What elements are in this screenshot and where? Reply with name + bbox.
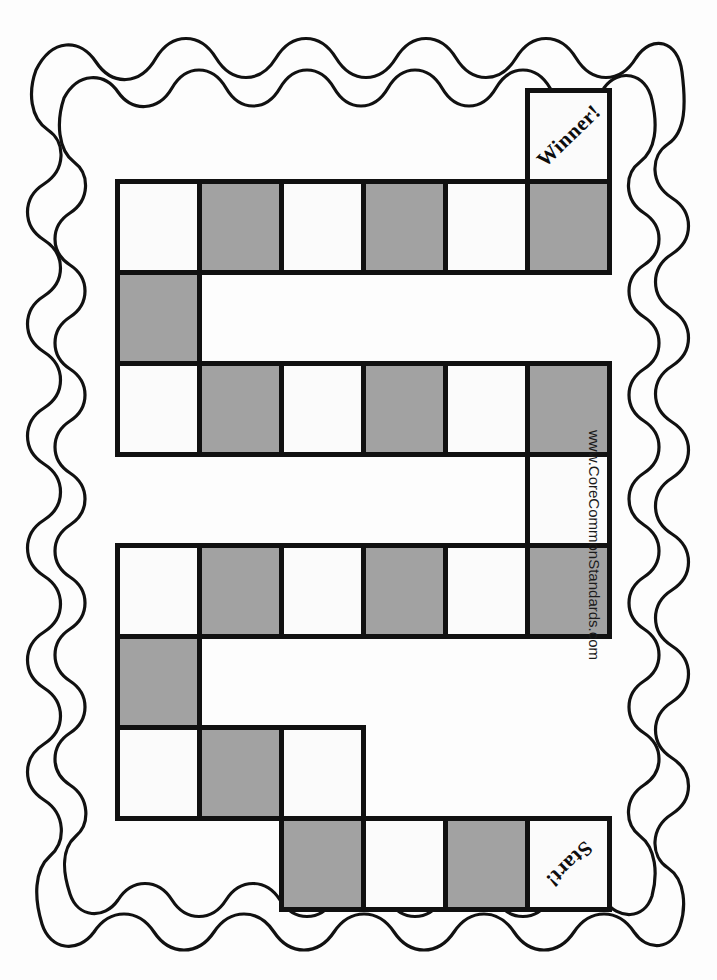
board-cell-r3c0[interactable] (115, 361, 202, 457)
board-cell-winner[interactable]: Winner! (525, 88, 612, 184)
board-cell-r5c4[interactable] (443, 543, 530, 639)
board-cell-r2c0[interactable] (115, 270, 202, 366)
board-cell-r1c5[interactable] (525, 179, 612, 275)
board-cell-r1c0[interactable] (115, 179, 202, 275)
board-cell-r3c3[interactable] (361, 361, 448, 457)
board-cell-r5c1[interactable] (197, 543, 284, 639)
board-cell-r1c1[interactable] (197, 179, 284, 275)
board-cell-r3c2[interactable] (279, 361, 366, 457)
website-credit: www.CoreCommonStandards.com (586, 430, 603, 660)
board-cell-r1c4[interactable] (443, 179, 530, 275)
board-cell-r5c0[interactable] (115, 543, 202, 639)
board-cell-r5c2[interactable] (279, 543, 366, 639)
board-cell-r8c3[interactable] (361, 816, 448, 912)
game-board: Winner!Start! (0, 0, 717, 980)
board-cell-r3c4[interactable] (443, 361, 530, 457)
board-cell-r6c0[interactable] (115, 634, 202, 730)
board-cell-r7c2[interactable] (279, 725, 366, 821)
board-cell-r8c4[interactable] (443, 816, 530, 912)
board-cell-r3c1[interactable] (197, 361, 284, 457)
winner-label: Winner! (531, 100, 605, 173)
board-cell-r7c0[interactable] (115, 725, 202, 821)
board-cell-start[interactable]: Start! (525, 816, 612, 912)
board-cell-r7c1[interactable] (197, 725, 284, 821)
start-label: Start! (540, 836, 597, 893)
worksheet-page: Winner!Start! www.CoreCommonStandards.co… (0, 0, 717, 980)
board-cell-r5c3[interactable] (361, 543, 448, 639)
board-cell-r1c3[interactable] (361, 179, 448, 275)
board-cell-r8c2[interactable] (279, 816, 366, 912)
board-cell-r1c2[interactable] (279, 179, 366, 275)
